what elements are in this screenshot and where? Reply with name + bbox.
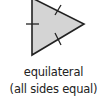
shape-label: equilateral bbox=[0, 65, 107, 79]
shape-description: (all sides equal) bbox=[0, 82, 107, 96]
triangle-shape bbox=[32, 0, 84, 55]
equilateral-triangle-diagram bbox=[0, 0, 107, 60]
